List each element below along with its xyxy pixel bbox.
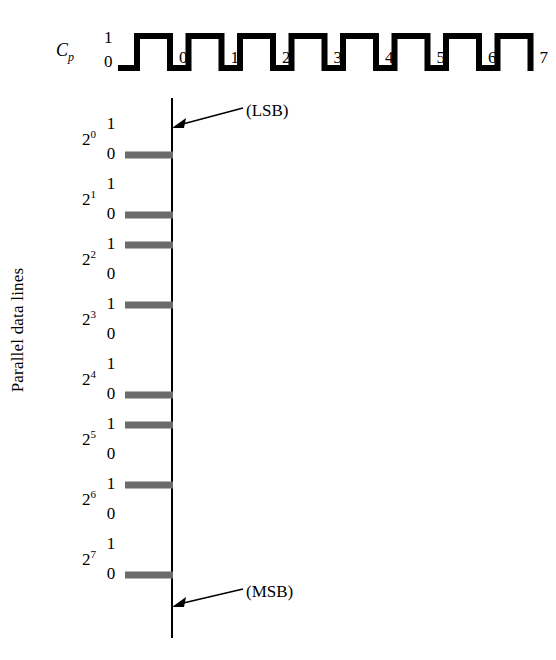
data-line-level-bar bbox=[125, 212, 173, 219]
timing-diagram: Parallel data lines Cp 1 0 01234567 2021… bbox=[0, 0, 556, 660]
weight-base: 2 bbox=[82, 310, 91, 329]
weight-base: 2 bbox=[82, 190, 91, 209]
data-line-high-label: 1 bbox=[104, 294, 118, 314]
data-line-level-bar bbox=[125, 392, 173, 399]
data-line-high-label: 1 bbox=[104, 114, 118, 134]
data-line-high-label: 1 bbox=[104, 534, 118, 554]
weight-base: 2 bbox=[82, 130, 91, 149]
weight-exponent: 2 bbox=[91, 248, 97, 260]
data-line-low-label: 0 bbox=[104, 564, 118, 584]
data-line-high-label: 1 bbox=[104, 354, 118, 374]
weight-exponent: 7 bbox=[91, 548, 97, 560]
data-line-low-label: 0 bbox=[104, 264, 118, 284]
weight-exponent: 6 bbox=[91, 488, 97, 500]
msb-annotation: (MSB) bbox=[246, 582, 293, 602]
data-line-high-label: 1 bbox=[104, 414, 118, 434]
data-line-low-label: 0 bbox=[104, 144, 118, 164]
weight-exponent: 5 bbox=[91, 428, 97, 440]
data-line-weight-label: 22 bbox=[56, 248, 96, 270]
data-line-low-label: 0 bbox=[104, 324, 118, 344]
weight-base: 2 bbox=[82, 250, 91, 269]
data-line-weight-label: 24 bbox=[56, 368, 96, 390]
data-line-level-bar bbox=[125, 302, 173, 309]
data-line-low-label: 0 bbox=[104, 444, 118, 464]
weight-exponent: 3 bbox=[91, 308, 97, 320]
data-line-high-label: 1 bbox=[104, 474, 118, 494]
data-line-level-bar bbox=[125, 152, 173, 159]
weight-base: 2 bbox=[82, 370, 91, 389]
data-line-low-label: 0 bbox=[104, 384, 118, 404]
weight-base: 2 bbox=[82, 550, 91, 569]
data-line-weight-label: 26 bbox=[56, 488, 96, 510]
data-line-weight-label: 23 bbox=[56, 308, 96, 330]
data-line-weight-label: 25 bbox=[56, 428, 96, 450]
data-line-low-label: 0 bbox=[104, 504, 118, 524]
data-line-high-label: 1 bbox=[104, 234, 118, 254]
data-line-level-bar bbox=[125, 422, 173, 429]
lsb-arrow-head bbox=[172, 118, 186, 128]
data-line-level-bar bbox=[125, 242, 173, 249]
data-line-low-label: 0 bbox=[104, 204, 118, 224]
msb-arrow-line bbox=[179, 589, 243, 604]
data-line-level-bar bbox=[125, 572, 173, 579]
data-line-weight-label: 27 bbox=[56, 548, 96, 570]
lsb-annotation: (LSB) bbox=[246, 101, 289, 121]
data-line-weight-label: 21 bbox=[56, 188, 96, 210]
weight-base: 2 bbox=[82, 490, 91, 509]
data-line-level-bar bbox=[125, 482, 173, 489]
weight-exponent: 4 bbox=[91, 368, 97, 380]
data-line-weight-label: 20 bbox=[56, 128, 96, 150]
weight-exponent: 1 bbox=[91, 188, 97, 200]
data-line-high-label: 1 bbox=[104, 174, 118, 194]
lsb-arrow-line bbox=[179, 108, 243, 125]
annotation-arrows bbox=[172, 108, 243, 607]
data-line-bars bbox=[125, 152, 173, 579]
weight-exponent: 0 bbox=[91, 128, 97, 140]
msb-arrow-head bbox=[172, 597, 186, 607]
weight-base: 2 bbox=[82, 430, 91, 449]
